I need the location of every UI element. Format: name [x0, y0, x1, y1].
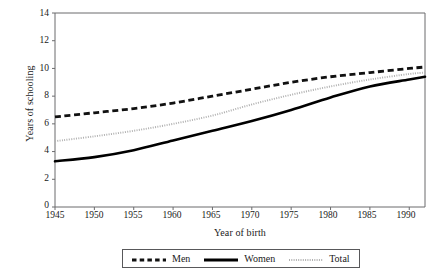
series-line-women — [55, 77, 425, 162]
series-line-men — [55, 67, 425, 117]
data-series-layer — [55, 67, 425, 161]
chart-figure: Years of schooling 14 12 10 8 6 4 2 0 19… — [0, 0, 440, 279]
legend-label-men: Men — [172, 254, 190, 264]
dotted-line-swatch — [289, 255, 323, 263]
chart-legend: Men Women Total — [122, 249, 360, 268]
axis-frame — [55, 13, 425, 207]
series-line-total — [55, 73, 425, 142]
legend-label-total: Total — [329, 254, 349, 264]
plot-area — [0, 0, 440, 279]
legend-item-men: Men — [132, 254, 190, 264]
legend-label-women: Women — [244, 254, 275, 264]
legend-item-total: Total — [289, 254, 349, 264]
legend-item-women: Women — [204, 254, 275, 264]
dashed-line-swatch — [132, 255, 166, 263]
solid-line-swatch — [204, 255, 238, 263]
